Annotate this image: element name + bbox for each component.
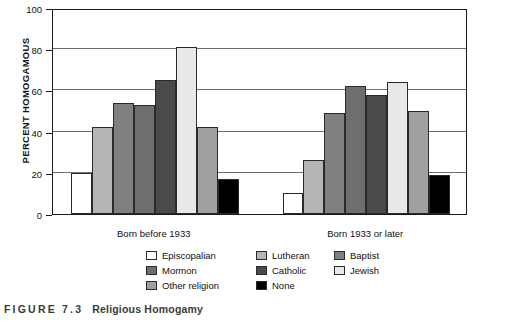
bar-series-container <box>53 10 466 214</box>
legend-swatch-icon <box>146 266 157 275</box>
legend-item-other-religion: Other religion <box>146 280 219 291</box>
y-tick-label-40: 40 <box>31 127 42 138</box>
legend-label: Catholic <box>272 265 306 276</box>
bar-episcopalian-group-1 <box>71 173 92 214</box>
bar-none-group-2 <box>429 175 450 214</box>
legend-label: Lutheran <box>272 250 310 261</box>
legend-swatch-icon <box>256 266 267 275</box>
bar-none-group-1 <box>218 179 239 214</box>
y-tick-label-80: 80 <box>31 45 42 56</box>
group-label-1: Born before 1933 <box>84 228 224 239</box>
legend-item-catholic: Catholic <box>256 265 306 276</box>
bar-lutheran-group-1 <box>92 127 113 214</box>
legend-swatch-icon <box>334 251 345 260</box>
figure-title: Religious Homogamy <box>92 303 203 315</box>
figure-caption: FIGURE 7.3Religious Homogamy <box>4 303 203 315</box>
legend-swatch-icon <box>146 251 157 260</box>
legend-item-mormon: Mormon <box>146 265 197 276</box>
bar-baptist-group-2 <box>324 113 345 214</box>
legend-label: Episcopalian <box>162 250 216 261</box>
y-tick-label-100: 100 <box>26 4 42 15</box>
legend-swatch-icon <box>256 251 267 260</box>
bar-mormon-group-2 <box>345 86 366 214</box>
bar-mormon-group-1 <box>134 105 155 214</box>
y-tick-label-0: 0 <box>37 210 42 221</box>
legend-label: Jewish <box>350 265 379 276</box>
legend-item-jewish: Jewish <box>334 265 379 276</box>
legend-item-none: None <box>256 280 295 291</box>
bar-other-religion-group-1 <box>197 127 218 214</box>
legend-item-baptist: Baptist <box>334 250 379 261</box>
bar-jewish-group-1 <box>176 47 197 214</box>
y-tick-label-60: 60 <box>31 86 42 97</box>
legend: EpiscopalianLutheranBaptistMormonCatholi… <box>146 250 391 294</box>
bar-catholic-group-1 <box>155 80 176 214</box>
bar-catholic-group-2 <box>366 95 387 214</box>
bar-baptist-group-1 <box>113 103 134 214</box>
bar-episcopalian-group-2 <box>283 193 304 214</box>
legend-swatch-icon <box>146 281 157 290</box>
group-label-2: Born 1933 or later <box>295 228 435 239</box>
figure-container: PERCENT HOMOGAMOUS 020406080100 Born bef… <box>0 0 508 324</box>
bar-other-religion-group-2 <box>408 111 429 214</box>
bar-lutheran-group-2 <box>303 160 324 214</box>
legend-item-episcopalian: Episcopalian <box>146 250 216 261</box>
bar-jewish-group-2 <box>387 82 408 214</box>
legend-label: None <box>272 280 295 291</box>
legend-swatch-icon <box>256 281 267 290</box>
legend-label: Baptist <box>350 250 379 261</box>
legend-item-lutheran: Lutheran <box>256 250 310 261</box>
figure-number: FIGURE 7.3 <box>4 303 83 315</box>
y-tick-mark-0 <box>46 215 52 216</box>
legend-label: Other religion <box>162 280 219 291</box>
legend-label: Mormon <box>162 265 197 276</box>
plot-area <box>52 9 467 215</box>
y-axis-tick-labels: 020406080100 <box>0 9 46 215</box>
y-tick-label-20: 20 <box>31 168 42 179</box>
legend-swatch-icon <box>334 266 345 275</box>
